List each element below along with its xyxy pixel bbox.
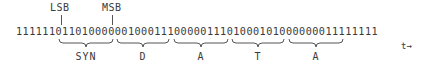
group-label-syn: SYN [75,51,96,62]
group-label-d: D [139,51,146,62]
group-label-a-2: A [312,51,319,62]
group-braces [0,0,436,67]
time-axis-label: t→ [401,41,412,51]
group-label-t: T [254,51,261,62]
group-label-a: A [197,51,204,62]
